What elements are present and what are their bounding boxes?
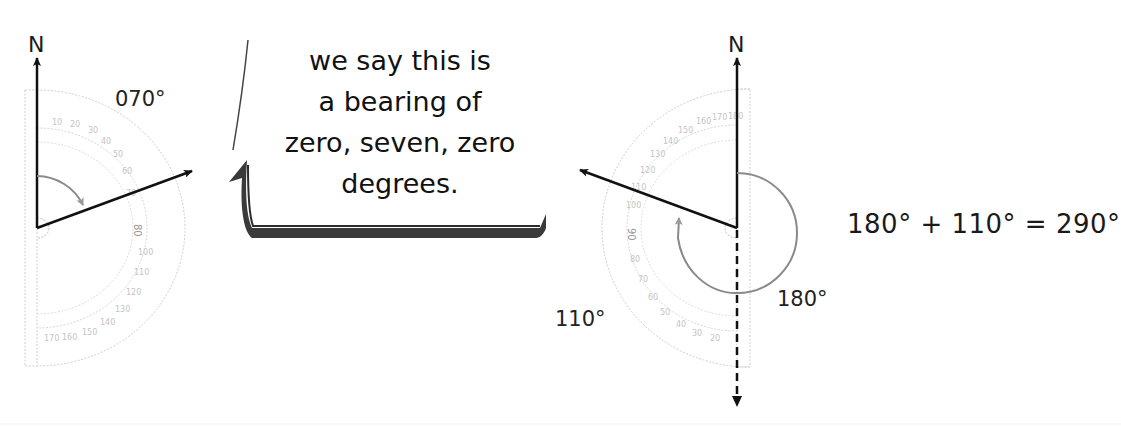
left-bearing-arrow (37, 171, 192, 228)
left-north-label: N (28, 32, 44, 57)
svg-text:160: 160 (62, 333, 77, 342)
svg-text:160: 160 (696, 117, 711, 126)
svg-text:80: 80 (132, 224, 143, 237)
bearing-equation: 180° + 110° = 290° (847, 209, 1121, 239)
angle-180-label: 180° (777, 287, 828, 311)
svg-text:20: 20 (70, 120, 80, 129)
svg-text:130: 130 (115, 305, 130, 314)
svg-text:60: 60 (122, 167, 132, 176)
svg-text:120: 120 (126, 288, 141, 297)
svg-text:170: 170 (44, 334, 59, 343)
angle-110-label: 110° (555, 307, 606, 331)
svg-text:50: 50 (660, 308, 670, 317)
left-protractor-ticks: 102030 405060 70 80 100110120 130140150 … (44, 118, 153, 343)
svg-text:110: 110 (134, 268, 149, 277)
svg-text:100: 100 (626, 201, 641, 210)
right-bearing-arrow (580, 170, 737, 228)
svg-text:150: 150 (82, 328, 97, 337)
svg-text:90: 90 (626, 228, 637, 241)
svg-text:150: 150 (678, 126, 693, 135)
svg-text:40: 40 (676, 320, 686, 329)
svg-text:180: 180 (728, 112, 743, 121)
svg-text:30: 30 (88, 126, 98, 135)
left-angle-arc (37, 176, 83, 205)
speech-line-2: a bearing of (250, 81, 550, 122)
svg-text:120: 120 (640, 166, 655, 175)
bearings-diagram: 102030 405060 70 80 100110120 130140150 … (0, 0, 1121, 427)
svg-text:130: 130 (650, 150, 665, 159)
svg-text:10: 10 (52, 118, 62, 127)
arc-180 (737, 173, 797, 293)
svg-text:140: 140 (100, 318, 115, 327)
arc-110 (678, 218, 737, 293)
svg-text:170: 170 (712, 113, 727, 122)
svg-text:50: 50 (113, 150, 123, 159)
speech-line-1: we say this is (250, 40, 550, 81)
right-north-label: N (728, 32, 744, 57)
svg-text:100: 100 (138, 248, 153, 257)
left-bearing-label: 070° (115, 87, 166, 111)
svg-text:60: 60 (648, 293, 658, 302)
svg-text:40: 40 (101, 137, 111, 146)
speech-line-4: degrees. (250, 163, 550, 204)
right-protractor-ticks: 180170160 150140130 120110100 90 807060 … (626, 112, 743, 343)
svg-text:30: 30 (692, 329, 702, 338)
speech-bubble: we say this is a bearing of zero, seven,… (250, 40, 550, 204)
speech-line-3: zero, seven, zero (250, 122, 550, 163)
svg-text:20: 20 (710, 334, 720, 343)
svg-text:140: 140 (663, 137, 678, 146)
svg-text:70: 70 (638, 275, 648, 284)
svg-text:80: 80 (630, 255, 640, 264)
